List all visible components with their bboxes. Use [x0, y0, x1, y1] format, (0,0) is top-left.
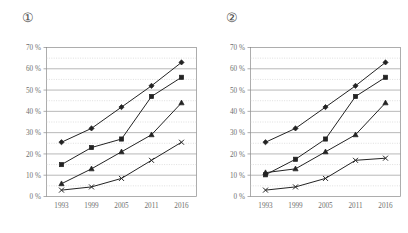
marker-square	[89, 145, 93, 149]
y-tick-label: 10 %	[26, 172, 41, 180]
x-tick-label: 2005	[114, 202, 129, 210]
x-tick-label: 1999	[288, 202, 303, 210]
x-tick-label: 1993	[258, 202, 273, 210]
marker-square	[149, 94, 153, 98]
x-tick-label: 2005	[318, 202, 333, 210]
y-tick-label: 40 %	[26, 108, 41, 116]
y-tick-label: 30 %	[230, 129, 245, 137]
marker-square	[119, 137, 123, 141]
marker-square	[353, 94, 357, 98]
marker-square	[323, 137, 327, 141]
y-tick-label: 30 %	[26, 129, 41, 137]
y-tick-label: 70 %	[26, 44, 41, 52]
x-tick-label: 2011	[348, 202, 363, 210]
marker-square	[179, 75, 183, 79]
y-tick-label: 0 %	[234, 193, 245, 201]
y-tick-label: 0 %	[30, 193, 41, 201]
marker-square	[383, 75, 387, 79]
charts-root: ① 0 %10 %20 %30 %40 %50 %60 %70 %1993199…	[0, 0, 408, 233]
chart-one-plot: 0 %10 %20 %30 %40 %50 %60 %70 %199319992…	[0, 0, 204, 233]
y-tick-label: 50 %	[230, 87, 245, 95]
x-tick-label: 1993	[54, 202, 69, 210]
y-tick-label: 70 %	[230, 44, 245, 52]
y-tick-label: 60 %	[26, 65, 41, 73]
x-tick-label: 2011	[144, 202, 159, 210]
y-tick-label: 40 %	[230, 108, 245, 116]
marker-square	[59, 162, 63, 166]
x-tick-label: 2016	[174, 202, 189, 210]
y-tick-label: 60 %	[230, 65, 245, 73]
chart-two-plot: 0 %10 %20 %30 %40 %50 %60 %70 %199319992…	[204, 0, 408, 233]
y-tick-label: 50 %	[26, 87, 41, 95]
y-tick-label: 20 %	[26, 151, 41, 159]
y-tick-label: 20 %	[230, 151, 245, 159]
x-tick-label: 2016	[378, 202, 393, 210]
chart-panel-two: ② 0 %10 %20 %30 %40 %50 %60 %70 %1993199…	[204, 0, 408, 233]
chart-panel-one: ① 0 %10 %20 %30 %40 %50 %60 %70 %1993199…	[0, 0, 204, 233]
marker-square	[293, 157, 297, 161]
y-tick-label: 10 %	[230, 172, 245, 180]
x-tick-label: 1999	[84, 202, 99, 210]
